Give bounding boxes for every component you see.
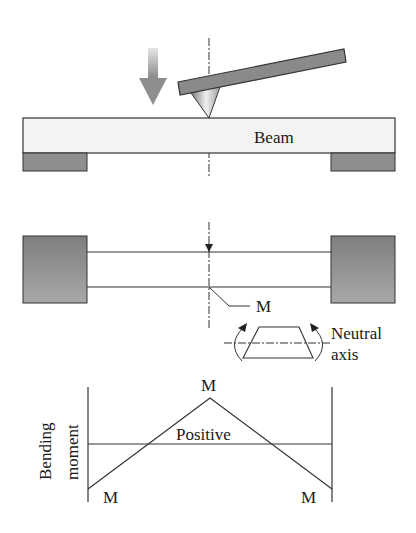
bm-positive-label: Positive	[176, 425, 231, 444]
support-right	[331, 153, 395, 171]
end-block-right	[331, 236, 395, 303]
beam-label: Beam	[254, 128, 294, 147]
three-point-bending-diagram: Beam M Neutral axis	[0, 0, 416, 533]
bm-left-label: M	[103, 488, 118, 507]
support-left	[23, 153, 87, 171]
bm-right-label: M	[301, 488, 316, 507]
loading-rod	[178, 49, 346, 95]
panel-middle-section: M Neutral axis	[23, 222, 395, 364]
bm-axis-label-1: Bending	[36, 422, 55, 480]
beam	[23, 118, 395, 153]
neutral-axis-label-2: axis	[331, 345, 358, 364]
moment-label: M	[256, 297, 271, 316]
end-block-left	[23, 236, 87, 303]
section-bending-icon	[224, 323, 330, 361]
bm-peak-label: M	[201, 376, 216, 395]
neutral-axis-label-1: Neutral	[331, 324, 382, 343]
moment-leader-line	[209, 287, 250, 306]
panel-top-loading: Beam	[23, 38, 395, 178]
panel-bottom-bending-moment: M M M Positive Bending moment	[36, 376, 332, 507]
load-arrow-icon	[139, 48, 167, 105]
bm-axis-label-2: moment	[63, 424, 82, 480]
load-point-arrow-icon	[205, 244, 213, 252]
